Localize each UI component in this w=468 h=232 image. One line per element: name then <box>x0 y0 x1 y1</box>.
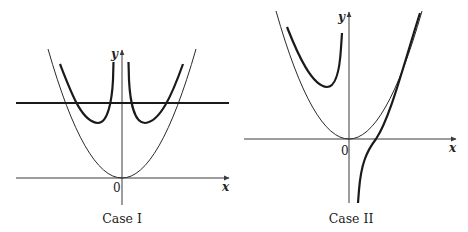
case-1-right-branch <box>129 62 184 123</box>
case-2-origin-label: 0 <box>341 144 349 158</box>
case-2-right-branch <box>358 13 420 203</box>
case-2-x-label: x <box>448 141 457 155</box>
case-2-left-branch <box>287 27 342 87</box>
case-2-panel: y 0 x Case II <box>244 10 457 226</box>
case-2-caption: Case II <box>329 211 374 226</box>
case-1-panel: y 0 x Case I <box>16 47 230 226</box>
case-1-origin-label: 0 <box>113 181 121 195</box>
case-1-x-label: x <box>221 180 230 194</box>
case-1-left-branch <box>60 62 114 123</box>
figure: y 0 x Case I y 0 x Case II <box>0 0 468 232</box>
case-1-caption: Case I <box>102 211 142 226</box>
case-1-y-label: y <box>110 47 119 61</box>
case-2-y-label: y <box>337 10 346 24</box>
